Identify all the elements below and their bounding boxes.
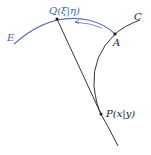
point-a — [114, 33, 117, 36]
point-q — [56, 18, 59, 21]
label-c: C — [134, 11, 142, 22]
label-q: Q(ξ|η) — [49, 5, 80, 17]
normal-line-qp — [57, 19, 101, 114]
evolute-curve-e — [14, 18, 115, 44]
point-p — [100, 113, 103, 116]
label-p: P(x|y) — [105, 108, 135, 120]
label-a: A — [112, 37, 120, 48]
label-e: E — [6, 32, 15, 43]
diagram-canvas: Q(ξ|η) E C A P(x|y) — [0, 0, 151, 155]
